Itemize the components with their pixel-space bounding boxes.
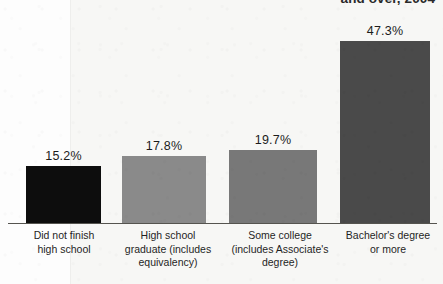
category-label-line: degree) xyxy=(221,256,339,270)
bar-rect xyxy=(340,41,430,224)
category-label-line: Bachelor's degree xyxy=(338,229,438,243)
bar-rect xyxy=(122,156,206,224)
bar-rect xyxy=(26,166,101,224)
bar-value-label: 19.7% xyxy=(255,133,291,147)
plot-area: 15.2% 17.8% 19.7% 47.3% xyxy=(0,0,443,224)
bar-group: 19.7% xyxy=(229,0,317,224)
bar-value-label: 17.8% xyxy=(146,139,182,153)
bar-value-label: 47.3% xyxy=(367,24,403,38)
bar-group: 15.2% xyxy=(26,0,101,224)
category-label-line: high school xyxy=(8,243,120,257)
category-label: Bachelor's degree or more xyxy=(338,229,438,256)
bar-group: 47.3% xyxy=(340,0,430,224)
bar-group: 17.8% xyxy=(122,0,206,224)
category-axis-labels: Did not finish high school High school g… xyxy=(0,229,443,284)
category-label-line: Did not finish xyxy=(8,229,120,243)
category-label: Some college (includes Associate's degre… xyxy=(221,229,339,270)
category-label-line: (includes Associate's xyxy=(221,243,339,257)
category-label-line: equivalency) xyxy=(113,256,223,270)
bar-value-label: 15.2% xyxy=(45,149,81,163)
bar-rect xyxy=(229,150,317,224)
category-label: Did not finish high school xyxy=(8,229,120,256)
x-axis-line xyxy=(8,223,437,224)
category-label-line: or more xyxy=(338,243,438,257)
scanned-chart-page: and over, 2004 15.2% 17.8% 19.7% 47.3% D… xyxy=(0,0,443,284)
category-label: High school graduate (includes equivalen… xyxy=(113,229,223,270)
category-label-line: High school xyxy=(113,229,223,243)
category-label-line: graduate (includes xyxy=(113,243,223,257)
category-label-line: Some college xyxy=(221,229,339,243)
